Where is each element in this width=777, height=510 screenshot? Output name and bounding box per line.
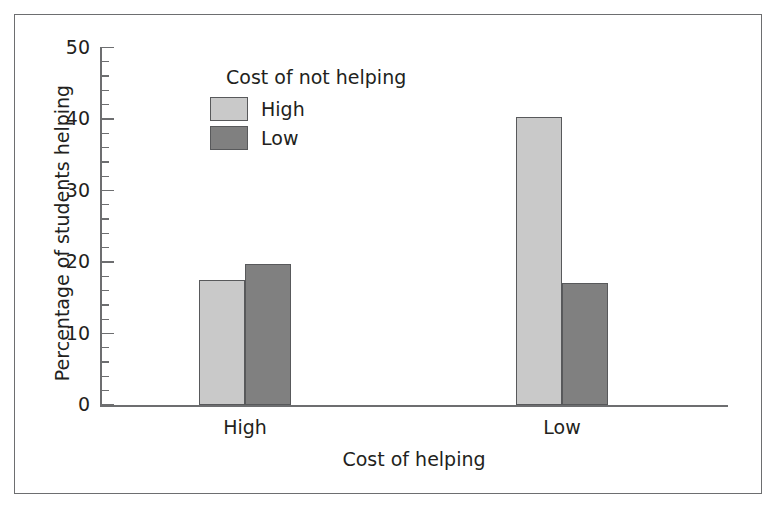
y-tick-minor bbox=[101, 161, 109, 162]
y-axis-line bbox=[100, 47, 102, 406]
y-tick-major bbox=[101, 190, 114, 191]
y-tick-minor bbox=[101, 104, 109, 105]
bar-low-high bbox=[516, 117, 562, 405]
y-tick-major bbox=[101, 333, 114, 334]
y-axis-title: Percentage of students helping bbox=[51, 53, 73, 413]
bar-high-high bbox=[199, 280, 245, 405]
y-tick-major bbox=[101, 47, 114, 48]
y-tick-minor bbox=[101, 176, 109, 177]
y-tick-minor bbox=[101, 218, 109, 219]
legend: Cost of not helping High Low bbox=[210, 66, 406, 155]
y-tick-major bbox=[101, 118, 114, 119]
y-tick-minor bbox=[101, 247, 109, 248]
legend-swatch-low-icon bbox=[210, 126, 248, 150]
y-tick-minor bbox=[101, 90, 109, 91]
legend-title: Cost of not helping bbox=[226, 66, 406, 88]
x-category-label-high: High bbox=[165, 416, 325, 438]
y-tick-minor bbox=[101, 376, 109, 377]
legend-swatch-high-icon bbox=[210, 97, 248, 121]
y-tick-minor bbox=[101, 133, 109, 134]
x-axis-line bbox=[100, 405, 728, 407]
y-tick-minor bbox=[101, 319, 109, 320]
y-tick-major bbox=[101, 261, 114, 262]
plot-area: 01020304050 HighLow Cost of helping Perc… bbox=[0, 0, 777, 510]
x-category-label-low: Low bbox=[482, 416, 642, 438]
figure-container: 01020304050 HighLow Cost of helping Perc… bbox=[0, 0, 777, 510]
y-tick-minor bbox=[101, 276, 109, 277]
y-tick-minor bbox=[101, 233, 109, 234]
y-tick-major bbox=[101, 404, 114, 405]
legend-label-low: Low bbox=[261, 127, 298, 149]
legend-item-high: High bbox=[210, 97, 406, 121]
legend-item-low: Low bbox=[210, 126, 406, 150]
y-tick-minor bbox=[101, 290, 109, 291]
bar-high-low bbox=[245, 264, 291, 405]
x-axis-title: Cost of helping bbox=[100, 448, 728, 470]
y-tick-minor bbox=[101, 147, 109, 148]
y-tick-minor bbox=[101, 61, 109, 62]
legend-label-high: High bbox=[261, 98, 305, 120]
y-tick-minor bbox=[101, 75, 109, 76]
y-tick-minor bbox=[101, 304, 109, 305]
bar-low-low bbox=[562, 283, 608, 405]
y-tick-minor bbox=[101, 204, 109, 205]
y-tick-minor bbox=[101, 347, 109, 348]
y-tick-minor bbox=[101, 390, 109, 391]
y-tick-minor bbox=[101, 361, 109, 362]
